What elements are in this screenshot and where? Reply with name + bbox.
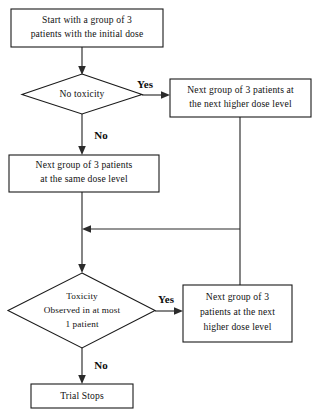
node-decision-toxicity-line-2: Observed in at most xyxy=(44,305,121,315)
node-decision-toxicity-line-3: 1 patient xyxy=(65,319,99,329)
connector-decision1-no xyxy=(78,114,86,155)
node-escalate-top-line-1: Next group of 3 patients at xyxy=(187,84,294,95)
node-decision-no-toxicity[interactable]: No toxicity xyxy=(22,74,142,114)
node-decision-toxicity-at-most-one[interactable]: Toxicity Observed in at most 1 patient xyxy=(8,273,155,348)
connector-start-to-decision1 xyxy=(78,47,86,75)
connector-decision1-yes xyxy=(142,91,170,99)
node-escalate-bottom-line-3: higher dose level xyxy=(203,321,271,332)
branch-label-yes-top: Yes xyxy=(137,78,154,90)
node-escalate-bottom-line-1: Next group of 3 xyxy=(206,291,269,302)
node-start-line-2: patients with the initial dose xyxy=(31,28,144,39)
connector-decision2-yes xyxy=(155,307,183,315)
node-escalate-bottom-line-2: patients at the next xyxy=(200,306,275,317)
node-same-dose[interactable]: Next group of 3 patients at the same dos… xyxy=(9,155,159,192)
node-decision-toxicity-line-1: Toxicity xyxy=(66,291,98,301)
connector-merge-horizontal xyxy=(82,225,240,233)
branch-label-no-top: No xyxy=(94,129,108,141)
node-same-dose-line-2: at the same dose level xyxy=(40,173,128,184)
node-decision-no-toxicity-label: No toxicity xyxy=(59,88,104,99)
connector-decision2-no xyxy=(78,348,86,384)
flowchart-svg: escalate top --> same dose --> esc xyxy=(0,0,318,418)
branch-label-no-bottom: No xyxy=(94,359,108,371)
node-trial-stops-label: Trial Stops xyxy=(60,390,104,401)
connector-samedose-spine xyxy=(78,192,86,273)
node-start-line-1: Start with a group of 3 xyxy=(42,14,132,25)
node-start[interactable]: Start with a group of 3 patients with th… xyxy=(11,9,163,47)
node-escalate-top-line-2: the next higher dose level xyxy=(189,98,292,109)
branch-label-yes-bottom: Yes xyxy=(158,293,175,305)
node-escalate-top[interactable]: Next group of 3 patients at the next hig… xyxy=(170,79,311,117)
flowchart-canvas: escalate top --> same dose --> esc xyxy=(0,0,318,418)
node-escalate-bottom[interactable]: Next group of 3 patients at the next hig… xyxy=(183,285,292,342)
node-same-dose-line-1: Next group of 3 patients xyxy=(36,159,133,170)
node-trial-stops[interactable]: Trial Stops xyxy=(31,384,133,408)
